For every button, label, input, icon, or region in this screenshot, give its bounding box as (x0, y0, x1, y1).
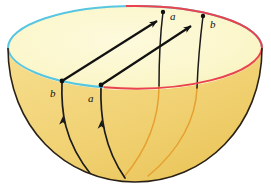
figure-container: b a a b (0, 0, 271, 187)
dot-b-far (201, 14, 205, 18)
dot-a-near (99, 83, 104, 88)
dot-b-near (60, 79, 65, 84)
label-b-near-left: b (50, 88, 56, 99)
label-a-far: a (170, 11, 176, 22)
label-a-near: a (88, 93, 94, 104)
label-b-far-right: b (210, 19, 216, 30)
hemisphere-diagram (0, 0, 271, 187)
dot-a-far (161, 10, 165, 14)
